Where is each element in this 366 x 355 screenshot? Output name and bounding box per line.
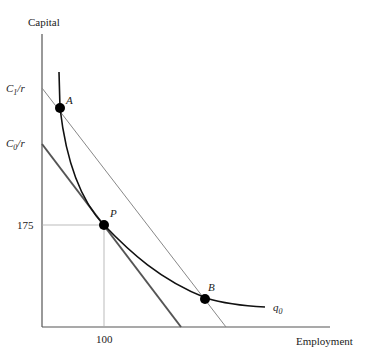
x-tick-100: 100 [96,333,113,345]
point-p [99,220,109,230]
isocost-c1 [42,88,226,327]
y-tick-c1: C1/r [6,82,25,97]
y-tick-175: 175 [17,219,34,231]
label-a: A [65,94,73,106]
isocost-c0 [42,144,181,327]
label-b: B [208,281,215,293]
y-axis-label: Capital [28,16,60,28]
isoquant-q0 [59,72,265,307]
label-q0: q0 [273,301,283,316]
point-a [55,103,65,113]
label-p: P [109,207,117,219]
point-b [200,294,210,304]
isoquant-isocost-diagram: Capital Employment C1/r C0/r 175 100 A P… [0,0,366,355]
x-axis-label: Employment [296,335,353,347]
y-tick-c0: C0/r [6,137,25,152]
